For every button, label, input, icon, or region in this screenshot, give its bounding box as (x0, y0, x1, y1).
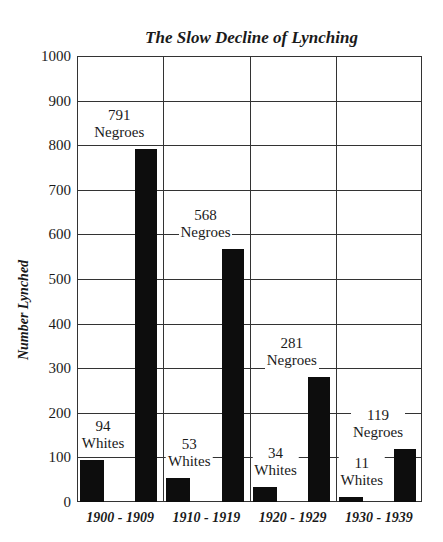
y-tick-label: 800 (49, 137, 72, 154)
bar-negroes (308, 377, 330, 502)
column-divider (336, 57, 337, 501)
bar-negroes (135, 149, 157, 502)
y-tick-label: 600 (49, 226, 72, 243)
column-divider (250, 57, 251, 501)
bar-whites (166, 478, 190, 502)
label-whites: 11Whites (339, 455, 386, 489)
bar-whites (253, 487, 277, 502)
label-negroes: 568Negroes (179, 207, 233, 241)
x-category-label: 1900 - 1909 (86, 510, 154, 526)
x-category-label: 1930 - 1939 (345, 510, 413, 526)
label-negroes: 119Negroes (351, 407, 405, 441)
y-tick-label: 300 (49, 360, 72, 377)
y-tick-label: 100 (49, 449, 72, 466)
y-tick-label: 500 (49, 271, 72, 288)
bar-whites (80, 460, 104, 502)
y-tick-label: 700 (49, 181, 72, 198)
bar-negroes (394, 449, 416, 502)
bar-whites (339, 497, 363, 502)
column-divider (163, 57, 164, 501)
y-axis-label: Number Lynched (16, 260, 32, 360)
x-category-label: 1910 - 1919 (173, 510, 241, 526)
label-negroes: 791Negroes (92, 107, 146, 141)
label-negroes: 281Negroes (265, 335, 319, 369)
label-whites: 34Whites (252, 445, 299, 479)
y-tick-label: 0 (64, 494, 72, 511)
y-tick-label: 1000 (41, 48, 71, 65)
chart-title: The Slow Decline of Lynching (0, 28, 443, 48)
y-tick-label: 200 (49, 404, 72, 421)
label-whites: 94Whites (80, 418, 127, 452)
label-whites: 53Whites (166, 436, 213, 470)
y-tick-label: 400 (49, 315, 72, 332)
x-category-label: 1920 - 1929 (259, 510, 327, 526)
bar-negroes (222, 249, 244, 502)
y-tick-label: 900 (49, 92, 72, 109)
